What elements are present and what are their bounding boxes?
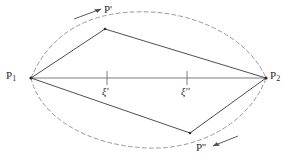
vertex-dot-p1 [29, 76, 32, 79]
label-p2: P2 [270, 70, 280, 83]
figure-container: P1 P2 P' P'' ξ' ξ'' [0, 0, 293, 163]
segment-p1-pdprime [31, 78, 190, 133]
lower-dashed-arc [31, 78, 266, 148]
label-p-prime: P' [104, 4, 112, 15]
label-p1-subscript: 1 [12, 74, 16, 83]
label-xi-prime: ξ' [102, 87, 108, 97]
segment-pprime-p2 [105, 29, 266, 78]
label-p-double-prime: P'' [196, 142, 206, 153]
segment-p1-pprime [31, 29, 105, 78]
vertex-dot-pprime [104, 28, 107, 31]
diagram-svg [0, 0, 293, 163]
segment-pdprime-p2 [190, 78, 266, 133]
upper-dashed-arc [31, 12, 266, 78]
vertex-dot-p2 [264, 76, 267, 79]
p-double-prime-motion-arrow [213, 136, 238, 146]
label-xi-double-prime: ξ'' [181, 87, 190, 97]
label-p2-subscript: 2 [276, 74, 280, 83]
vertex-dot-pdprime [189, 132, 192, 135]
label-p1: P1 [6, 70, 16, 83]
